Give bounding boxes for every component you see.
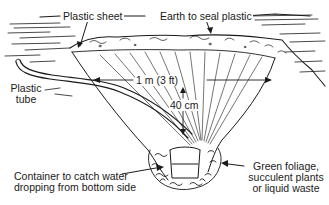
solar-still-diagram: Plastic sheet Earth to seal plastic Plas… bbox=[0, 0, 329, 205]
label-green-foliage: Green foliage, succulent plants or liqui… bbox=[244, 161, 328, 194]
label-earth-seal: Earth to seal plastic bbox=[159, 11, 253, 22]
label-container-line2: dropping from bottom side bbox=[14, 182, 124, 193]
label-foliage-line3: or liquid waste bbox=[244, 183, 328, 194]
ground-surface-left bbox=[5, 23, 75, 62]
label-width-dimension: 1 m (3 ft) bbox=[135, 75, 179, 86]
label-depth-dimension: 40 cm bbox=[169, 100, 200, 111]
label-container: Container to catch water dropping from b… bbox=[14, 171, 124, 193]
ground-surface-right bbox=[250, 15, 325, 72]
label-plastic-tube-line2: tube bbox=[10, 94, 42, 105]
label-plastic-tube: Plastic tube bbox=[10, 83, 42, 105]
label-plastic-sheet: Plastic sheet bbox=[62, 11, 124, 22]
earth-mound bbox=[70, 35, 325, 86]
pit-left-wall bbox=[72, 52, 168, 180]
pit-right-wall bbox=[208, 58, 275, 172]
collection-container bbox=[170, 147, 200, 178]
